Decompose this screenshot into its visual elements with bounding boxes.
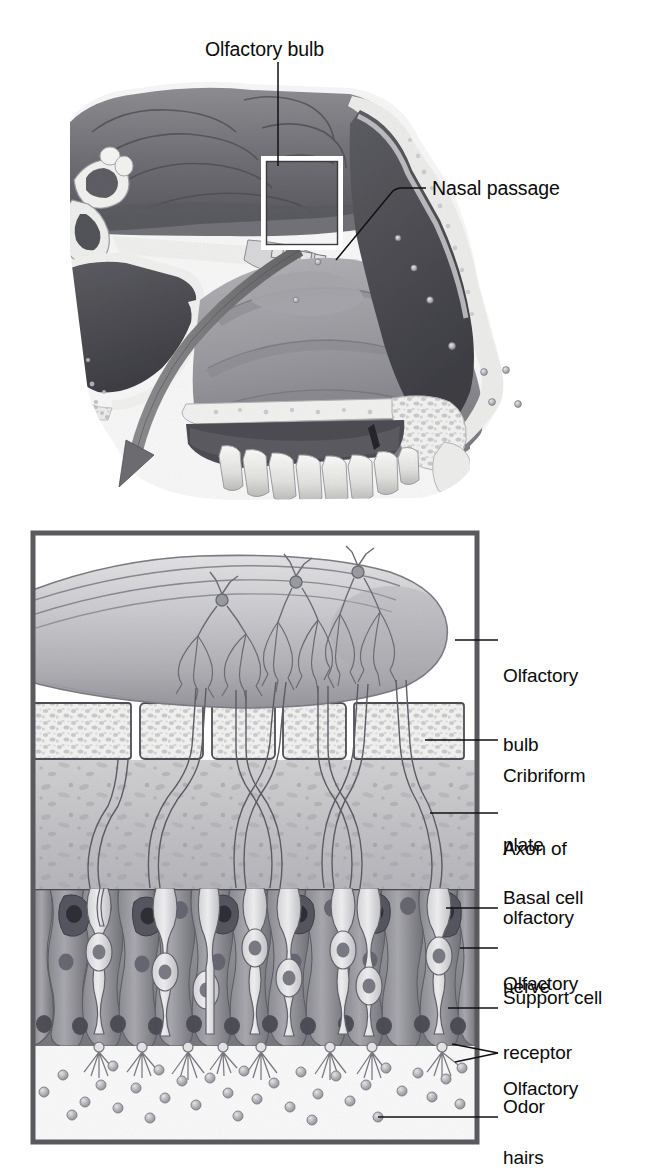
label-olfactory-hairs-line2: hairs	[503, 1146, 578, 1169]
label-cribriform-plate-line1: Cribriform	[503, 764, 585, 787]
label-nasal-passage-top: Nasal passage	[432, 177, 560, 199]
label-basal-cell: Basal cell	[503, 886, 583, 909]
label-olfactory-bulb-top: Olfactory bulb	[205, 38, 324, 60]
label-odor: Odor	[503, 1095, 545, 1118]
sagittal-head-illustration	[60, 62, 521, 510]
label-axon-line1: Axon of	[503, 837, 574, 860]
label-support-cell: Support cell	[503, 986, 602, 1009]
olfactory-figure: Olfactory bulb Nasal passage Olfactory b…	[0, 0, 650, 1176]
epithelium-panel	[0, 533, 498, 1142]
label-olfactory-bulb-line1: Olfactory	[503, 664, 578, 687]
